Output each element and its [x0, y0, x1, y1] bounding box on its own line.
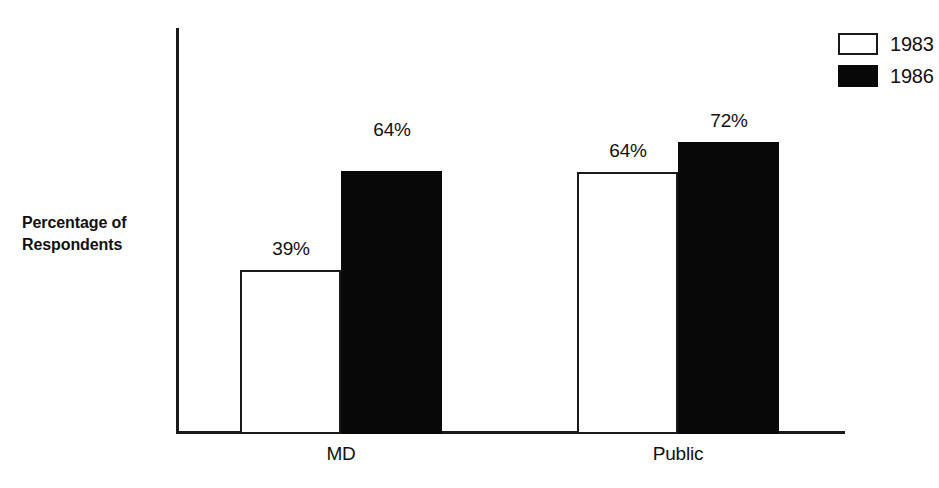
- bar-md-1986: [341, 171, 442, 434]
- y-axis-line: [176, 28, 179, 434]
- legend-swatch-1983-icon: [838, 33, 878, 55]
- legend-item-1983: 1983: [838, 28, 934, 60]
- value-label-public-1983: 64%: [609, 140, 646, 162]
- bar-md-1983: [240, 270, 341, 434]
- value-label-public-1986: 72%: [710, 110, 747, 132]
- y-axis-title: Percentage of Respondents: [22, 212, 172, 255]
- category-label-md: MD: [326, 443, 355, 465]
- legend-label-1986: 1986: [890, 65, 934, 88]
- category-label-public: Public: [653, 443, 704, 465]
- value-label-md-1983: 39%: [272, 238, 309, 260]
- legend: 1983 1986: [838, 28, 934, 92]
- bar-public-1986: [678, 142, 779, 434]
- y-axis-title-line-1: Percentage of: [22, 212, 172, 234]
- value-label-md-1986: 64%: [373, 119, 410, 141]
- legend-label-1983: 1983: [890, 33, 934, 56]
- y-axis-title-line-2: Respondents: [22, 234, 172, 256]
- legend-swatch-1986-icon: [838, 65, 878, 87]
- bar-public-1983: [577, 172, 678, 434]
- bar-chart: Percentage of Respondents 39% 64% MD 64%…: [0, 0, 939, 488]
- legend-item-1986: 1986: [838, 60, 934, 92]
